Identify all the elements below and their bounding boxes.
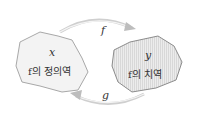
arrow-f-label: f — [101, 24, 105, 37]
arrow-g-label: g — [102, 89, 109, 102]
arrowhead-g-icon — [70, 90, 82, 100]
range-label: f의 치역 — [128, 66, 162, 81]
domain-label: f의 정의역 — [28, 63, 71, 78]
function-inverse-diagram: x f의 정의역 y f의 치역 f g — [0, 0, 203, 119]
arrowhead-f-icon — [124, 22, 136, 31]
domain-set-shape — [16, 32, 88, 92]
arrow-f — [60, 20, 136, 32]
range-set-shape — [112, 36, 182, 92]
domain-variable: x — [49, 46, 55, 59]
range-variable: y — [145, 49, 151, 62]
